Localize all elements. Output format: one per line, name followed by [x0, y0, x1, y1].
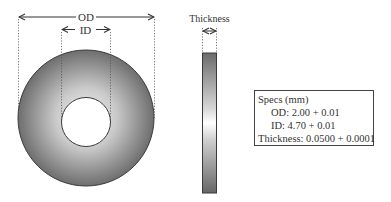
- specs-id: ID: 4.70 + 0.01: [258, 119, 370, 132]
- od-dimension: OD: [19, 11, 154, 23]
- od-label: OD: [78, 11, 94, 23]
- thickness-label: Thickness: [189, 13, 230, 24]
- washer-front-view: OD ID: [18, 11, 155, 186]
- washer-ring: [18, 50, 154, 186]
- washer-side-view: Thickness: [189, 13, 230, 193]
- washer-side-bar: [203, 53, 217, 193]
- id-label: ID: [80, 24, 92, 36]
- specs-title: Specs (mm): [258, 93, 370, 106]
- thickness-extension-lines: [203, 28, 217, 53]
- specs-box: Specs (mm) OD: 2.00 + 0.01 ID: 4.70 + 0.…: [254, 90, 374, 146]
- specs-thickness: Thickness: 0.0500 + 0.0001: [258, 132, 370, 145]
- id-dimension: ID: [62, 24, 110, 36]
- specs-od: OD: 2.00 + 0.01: [258, 106, 370, 119]
